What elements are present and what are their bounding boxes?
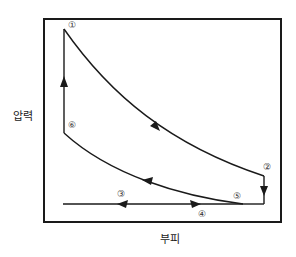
arrow-left-icon — [117, 200, 128, 208]
curve-5-6 — [64, 133, 243, 204]
arrow-left-icon — [142, 177, 153, 185]
arrow-up-icon — [60, 76, 68, 87]
point-label-3: ③ — [117, 189, 125, 199]
curve-1-2 — [64, 29, 264, 176]
point-label-4: ④ — [198, 209, 206, 219]
point-label-1: ① — [68, 20, 76, 30]
arrow-right-icon — [190, 200, 201, 208]
point-label-2: ② — [263, 162, 271, 172]
point-label-6: ⑥ — [68, 120, 76, 130]
pv-diagram: ① ② ③ ④ ⑤ ⑥ — [0, 0, 296, 257]
point-label-5: ⑤ — [233, 191, 241, 201]
arrow-down-right-icon — [150, 121, 160, 131]
arrow-down-icon — [260, 186, 268, 196]
